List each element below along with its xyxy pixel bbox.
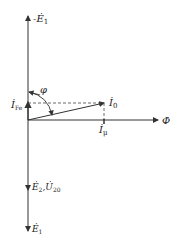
i0-phasor	[28, 103, 104, 120]
phi-arc	[29, 92, 52, 115]
e2-u20-label: Ė2,U̇20	[31, 181, 61, 193]
neg-e1-label: -Ė1	[33, 13, 48, 26]
e1-label: Ė1	[31, 223, 42, 235]
phi-angle-label: φ	[40, 84, 47, 95]
phi-arc-start-arrow	[29, 92, 40, 95]
flux-label: Φ̇	[162, 115, 170, 126]
phasor-diagram: -Ė1 φ İFe İ0 İμ Φ̇ Ė2,U̇20 Ė1	[0, 0, 182, 246]
imu-label: İμ	[98, 124, 108, 137]
i0-label: İ0	[108, 97, 117, 110]
ife-label: İFe	[10, 99, 23, 111]
